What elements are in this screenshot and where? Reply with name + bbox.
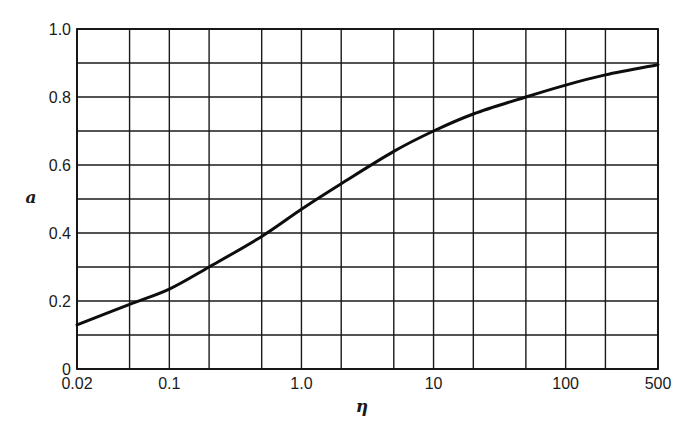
y-tick-label: 0.4 [49, 225, 71, 242]
chart: 0.020.11.010100500 00.20.40.60.81.0 η a [0, 0, 696, 427]
x-tick-label: 500 [645, 375, 672, 392]
y-tick-label: 0.6 [49, 157, 71, 174]
x-tick-label: 10 [425, 375, 443, 392]
data-curve [77, 65, 658, 325]
y-tick-label: 0.8 [49, 89, 71, 106]
x-tick-label: 1.0 [290, 375, 312, 392]
y-tick-label: 0.2 [49, 293, 71, 310]
x-tick-label: 0.1 [158, 375, 180, 392]
y-tick-label: 1.0 [49, 21, 71, 38]
x-tick-label: 100 [552, 375, 579, 392]
x-axis-label: η [356, 396, 368, 416]
y-tick-labels: 00.20.40.60.81.0 [49, 21, 71, 378]
y-gridlines [77, 29, 658, 369]
y-axis-label: a [25, 187, 36, 207]
y-tick-label: 0 [62, 361, 71, 378]
x-tick-labels: 0.020.11.010100500 [61, 375, 671, 392]
